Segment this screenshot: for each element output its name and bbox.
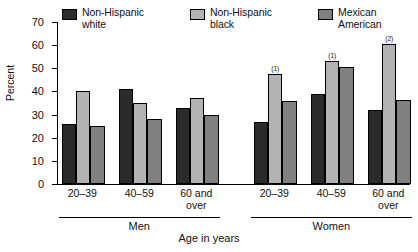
bar	[368, 110, 382, 184]
y-axis-tick-label: 60	[32, 39, 44, 51]
y-axis-tick	[52, 184, 58, 185]
bar-footnote-marker: (1)	[271, 65, 279, 72]
bar	[133, 103, 147, 184]
group-rule	[59, 217, 220, 218]
x-axis-category-label: 40–59	[113, 188, 165, 200]
group-label: Women	[312, 220, 350, 232]
bar	[204, 115, 218, 184]
bar	[119, 89, 133, 184]
y-axis-tick-label: 10	[32, 155, 44, 167]
bar-footnote-marker: (1)	[328, 52, 336, 59]
group-rule	[251, 217, 412, 218]
bar	[339, 67, 353, 184]
bar	[311, 94, 325, 184]
y-axis-title: Percent	[4, 53, 16, 113]
plot-area: 010203040506070 (1)(1)(2)	[57, 22, 410, 185]
bar-footnote-marker: (2)	[385, 35, 393, 42]
y-axis-tick-label: 30	[32, 109, 44, 121]
legend-swatch-icon-series-0	[62, 9, 77, 20]
group-label: Men	[129, 220, 150, 232]
x-axis-category-label: 20–39	[248, 188, 300, 200]
x-axis-title: Age in years	[178, 232, 239, 244]
y-axis-tick-label: 40	[32, 85, 44, 97]
bar	[282, 101, 296, 184]
bar	[90, 126, 104, 184]
bar	[254, 122, 268, 184]
x-axis-category-label: 60 and over	[170, 188, 222, 211]
bar	[268, 74, 282, 184]
y-axis-tick-label: 70	[32, 16, 44, 28]
y-axis-tick-label: 20	[32, 132, 44, 144]
bar	[325, 61, 339, 184]
bar	[76, 91, 90, 184]
x-axis-category-label: 40–59	[305, 188, 357, 200]
x-axis-category-label: 60 and over	[362, 188, 414, 211]
bar-series-container: (1)(1)(2)	[58, 22, 410, 184]
legend-swatch-icon-series-2	[318, 9, 333, 20]
bar	[382, 44, 396, 184]
bar	[176, 108, 190, 184]
bar	[396, 100, 410, 184]
legend-swatch-icon-series-1	[190, 9, 205, 20]
y-axis-tick-label: 50	[32, 62, 44, 74]
bar	[62, 124, 76, 184]
x-axis-category-label: 20–39	[56, 188, 108, 200]
y-axis-tick-label: 0	[38, 178, 44, 190]
chart-figure: Non-Hispanic white Non-Hispanic black Me…	[0, 0, 418, 252]
bar	[190, 98, 204, 184]
bar	[147, 119, 161, 184]
